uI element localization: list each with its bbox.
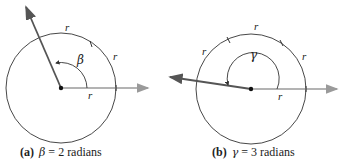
- radius-label-a: r: [88, 89, 93, 101]
- caption-b-tag: (b): [212, 145, 227, 159]
- arc-label-b-2: r: [302, 50, 307, 62]
- arc-label-b-3: r: [202, 45, 207, 57]
- caption-b: (b)γ = 3 radians: [212, 145, 295, 160]
- vertex-a: [59, 86, 63, 90]
- arc-label-a-2: r: [113, 50, 118, 62]
- arc-label-a-1: r: [65, 21, 70, 33]
- terminal-ray-a: [26, 7, 61, 88]
- caption-a-tag: (a): [20, 145, 34, 159]
- terminal-ray-b: [170, 77, 251, 89]
- figure-b: r r r r γ: [170, 20, 337, 144]
- angle-symbol-b: γ: [250, 48, 258, 62]
- angle-symbol-a: β: [76, 53, 84, 67]
- vertex-b: [249, 87, 253, 91]
- caption-a-equation: = 2 radians: [48, 145, 101, 159]
- radius-label-b: r: [278, 90, 283, 102]
- figure-a: r r r β: [6, 7, 148, 143]
- caption-a: (a)β = 2 radians: [20, 145, 102, 160]
- radian-diagram: r r r β r r r r γ: [0, 0, 343, 168]
- caption-b-symbol: γ: [232, 146, 239, 159]
- caption-a-symbol: β: [39, 146, 45, 159]
- caption-b-equation: = 3 radians: [241, 145, 294, 159]
- arc-label-b-1: r: [254, 20, 259, 32]
